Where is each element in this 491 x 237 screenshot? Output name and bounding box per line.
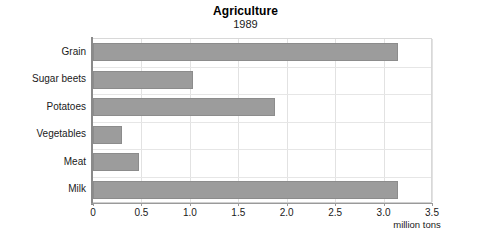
page-title: Agriculture [0,4,491,18]
x-axis-tick-label: 2.0 [267,206,307,219]
bar-row [93,122,431,150]
bar[interactable] [93,181,398,199]
x-axis-tick-label: 2.5 [315,206,355,219]
y-axis-tick-labels: GrainSugar beetsPotatoesVegetablesMeatMi… [0,38,86,203]
bar-row [93,39,431,67]
bar[interactable] [93,43,398,61]
bar[interactable] [93,126,122,144]
agriculture-bar-chart: Agriculture 1989 GrainSugar beetsPotatoe… [0,0,491,237]
gridline-vertical [432,39,433,202]
bar[interactable] [93,71,193,89]
bar-row [93,149,431,177]
chart-subtitle: 1989 [0,18,491,31]
x-axis-tick-label: 3.5 [412,206,452,219]
y-axis-tick-label: Grain [0,46,86,58]
bar[interactable] [93,153,139,171]
y-axis-tick-label: Milk [0,183,86,195]
bar-row [93,67,431,95]
x-axis-tick-label: 1.5 [218,206,258,219]
chart-title-block: Agriculture 1989 [0,4,491,31]
x-axis-tick-label: 0 [73,206,113,219]
bar-row [93,94,431,122]
bar[interactable] [93,98,275,116]
x-axis-label: million tons [362,219,472,231]
plot-area [93,38,432,203]
y-axis-tick-label: Sugar beets [0,73,86,85]
y-axis-tick-label: Potatoes [0,101,86,113]
x-axis-tick-label: 0.5 [121,206,161,219]
x-axis-tick-label: 1.0 [170,206,210,219]
y-axis-tick-label: Meat [0,156,86,168]
y-axis-tick-label: Vegetables [0,128,86,140]
bar-row [93,177,431,205]
y-axis-line [91,37,93,205]
x-axis-tick-label: 3.0 [364,206,404,219]
